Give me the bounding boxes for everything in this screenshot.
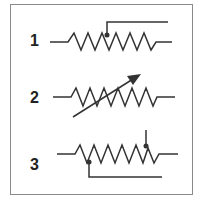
bottom-tap-wire-3 xyxy=(89,162,162,177)
resistor-zigzag-3 xyxy=(57,145,178,163)
potentiometer-symbol-1 xyxy=(50,22,172,50)
junction-dot-3a xyxy=(87,160,92,165)
arrow-shaft-2 xyxy=(73,79,133,117)
resistor-symbols-svg xyxy=(0,0,202,200)
resistor-zigzag-1 xyxy=(50,33,172,50)
arrow-head-2 xyxy=(127,74,141,85)
junction-dot-3b xyxy=(144,144,149,149)
tapped-resistor-symbol-3 xyxy=(57,130,178,177)
variable-resistor-symbol-2 xyxy=(53,74,175,117)
junction-dot-1 xyxy=(105,33,110,38)
